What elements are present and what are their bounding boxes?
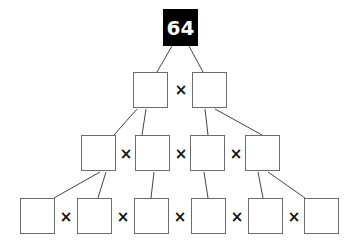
row4-box-4[interactable] [191,198,226,234]
row4-box-5[interactable] [248,198,283,234]
row3-box-3[interactable] [190,135,225,171]
multiply-sign: × [116,209,130,225]
row4-box-3[interactable] [134,198,169,234]
multiply-sign: × [287,209,301,225]
row4-box-6[interactable] [304,198,339,234]
target-value: 64 [167,16,195,40]
row4-box-2[interactable] [77,198,112,234]
multiply-sign: × [119,146,133,162]
multiply-sign: × [174,82,188,98]
row3-box-1[interactable] [81,135,116,171]
row3-box-2[interactable] [135,135,170,171]
row3-box-4[interactable] [245,135,280,171]
multiply-sign: × [174,146,188,162]
multiply-sign: × [229,146,243,162]
multiply-sign: × [59,209,73,225]
row4-box-1[interactable] [20,198,55,234]
row2-box-1[interactable] [133,72,168,108]
multiply-sign: × [230,209,244,225]
row2-box-2[interactable] [192,72,227,108]
target-product-box: 64 [163,9,198,46]
multiply-sign: × [173,209,187,225]
